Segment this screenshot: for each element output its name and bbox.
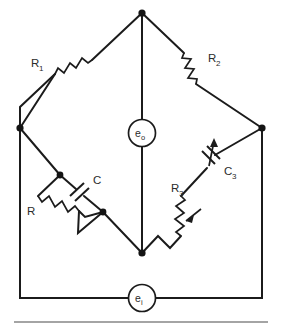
circuit-svg-canvas: R 1 R 2 C R xyxy=(0,0,281,331)
node-top-apex xyxy=(138,9,145,16)
wire-r2-to-right xyxy=(196,84,262,128)
resistor-r1-zigzag xyxy=(55,58,92,74)
wire-top-to-r1 xyxy=(92,13,142,60)
node-left xyxy=(16,124,23,131)
resistor-r3-zigzag xyxy=(175,196,185,236)
node-right xyxy=(258,124,265,131)
branch-r1: R 1 xyxy=(20,13,142,128)
label-r1-subscript: 1 xyxy=(39,64,44,73)
wire-center-to-r3 xyxy=(142,236,181,253)
wire-top-to-r2 xyxy=(142,13,184,53)
node-rc-bottom xyxy=(100,209,107,216)
node-bottom-center xyxy=(138,249,145,256)
node-rc-top xyxy=(57,172,64,179)
label-c: C xyxy=(93,174,101,186)
resistor-r3-variable-arrow-line xyxy=(186,209,201,221)
branch-r3-c3: R 3 C 3 xyxy=(142,128,262,253)
wire-source-to-right-up xyxy=(156,128,262,298)
wire-r3-to-c3 xyxy=(181,168,207,196)
label-c3-subscript: 3 xyxy=(232,172,237,181)
branch-rc-network: C R xyxy=(20,128,142,253)
wire-rc-bottom-to-center xyxy=(103,212,142,253)
resistor-r2-zigzag xyxy=(182,53,197,84)
branch-output-meter: e o xyxy=(129,13,156,253)
wire-left-down-to-source xyxy=(20,128,128,298)
resistor-r-zigzag xyxy=(38,196,79,212)
output-meter-subscript: o xyxy=(141,133,145,142)
capacitor-c3-variable-arrowhead xyxy=(210,138,218,147)
label-r2-subscript: 2 xyxy=(216,59,221,68)
label-r3-subscript: 3 xyxy=(179,189,184,198)
branch-r2: R 2 xyxy=(142,13,262,128)
circuit-diagram-figure: R 1 R 2 C R xyxy=(0,0,281,331)
label-r: R xyxy=(27,205,35,217)
wire-rc-top-to-r-stub xyxy=(38,175,60,196)
wire-c3-to-right xyxy=(215,128,262,155)
wire-left-to-rc-top xyxy=(20,128,60,175)
wire-capacitor-to-rc-bottom xyxy=(84,196,103,212)
